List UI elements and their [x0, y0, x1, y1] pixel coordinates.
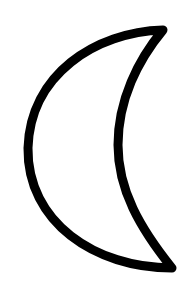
crescent-moon-icon: [0, 0, 193, 283]
icon-canvas: [0, 0, 193, 283]
crescent-moon-outline: [28, 30, 172, 268]
